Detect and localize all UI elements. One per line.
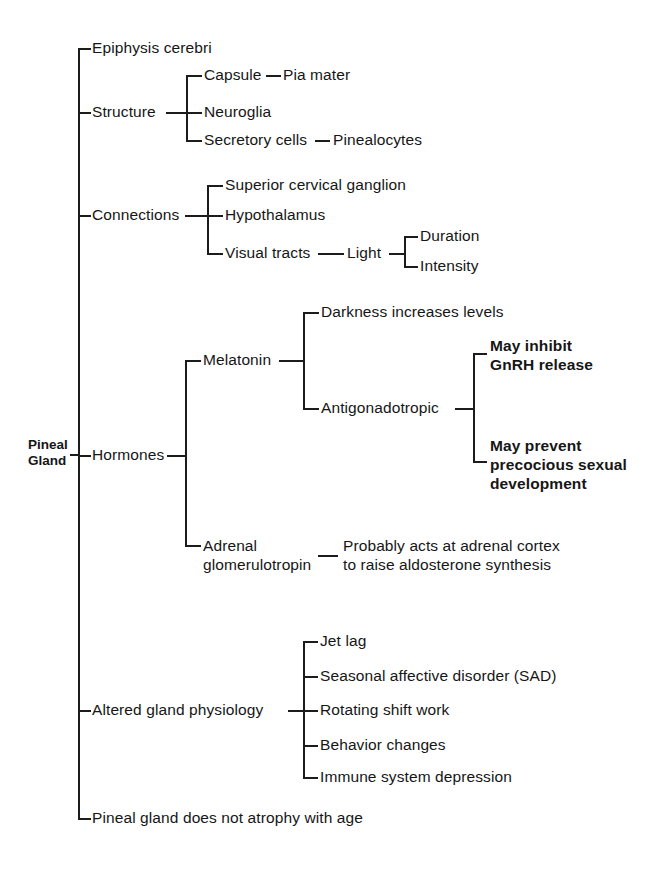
capsule-leaf-connector bbox=[266, 75, 281, 77]
node-epiphysis-cerebri: Epiphysis cerebri bbox=[92, 38, 212, 57]
node-immune-system-depression: Immune system depression bbox=[320, 767, 512, 786]
node-probably-acts-adrenal-cortex: Probably acts at adrenal cortex to raise… bbox=[343, 536, 560, 574]
node-structure: Structure bbox=[92, 102, 156, 121]
node-intensity: Intensity bbox=[420, 256, 479, 275]
antigonadotropic-stub-prevent bbox=[473, 461, 487, 463]
root-label: Pineal Gland bbox=[28, 437, 80, 469]
connections-stub-scg bbox=[207, 185, 223, 187]
node-hormones: Hormones bbox=[92, 445, 164, 464]
connections-stub-visual bbox=[207, 253, 223, 255]
node-altered-gland-physiology: Altered gland physiology bbox=[92, 700, 263, 719]
antigonadotropic-connector bbox=[455, 408, 475, 410]
node-may-inhibit-gnrh-release: May inhibit GnRH release bbox=[490, 336, 593, 374]
hormones-stub-melatonin bbox=[185, 360, 201, 362]
node-pia-mater: Pia mater bbox=[283, 65, 350, 84]
node-light: Light bbox=[347, 243, 381, 262]
altered-stub-rotating bbox=[303, 710, 318, 712]
altered-stub-jet-lag bbox=[303, 641, 318, 643]
branch-stub-atrophy bbox=[78, 818, 91, 820]
node-melatonin: Melatonin bbox=[203, 350, 271, 369]
node-rotating-shift-work: Rotating shift work bbox=[320, 700, 449, 719]
node-secretory-cells: Secretory cells bbox=[204, 130, 307, 149]
connections-stub-hypothalamus bbox=[207, 215, 223, 217]
structure-stub-neuroglia bbox=[186, 112, 202, 114]
branch-stub-hormones bbox=[78, 455, 91, 457]
node-duration: Duration bbox=[420, 226, 479, 245]
node-neuroglia: Neuroglia bbox=[204, 102, 271, 121]
light-stub-intensity bbox=[404, 266, 418, 268]
melatonin-stub-darkness bbox=[303, 312, 319, 314]
branch-stub-structure bbox=[78, 112, 91, 114]
visual-light-connector bbox=[318, 253, 344, 255]
main-spine bbox=[78, 48, 80, 819]
antigonadotropic-sub-spine bbox=[473, 353, 475, 463]
structure-stub-secretory bbox=[186, 140, 202, 142]
structure-connector bbox=[166, 112, 188, 114]
altered-stub-immune bbox=[303, 777, 318, 779]
node-antigonadotropic: Antigonadotropic bbox=[321, 398, 439, 417]
node-pineal-gland-does-not-atrophy: Pineal gland does not atrophy with age bbox=[92, 808, 363, 827]
hormones-sub-spine bbox=[185, 360, 187, 546]
light-sub-spine bbox=[404, 236, 406, 268]
node-superior-cervical-ganglion: Superior cervical ganglion bbox=[225, 175, 406, 194]
node-behavior-changes: Behavior changes bbox=[320, 735, 446, 754]
node-darkness-increases-levels: Darkness increases levels bbox=[321, 302, 504, 321]
concept-map-diagram: Pineal Gland Epiphysis cerebri Structure… bbox=[0, 0, 663, 883]
node-pinealocytes: Pinealocytes bbox=[333, 130, 422, 149]
light-stub-duration bbox=[404, 236, 418, 238]
structure-stub-capsule bbox=[186, 75, 202, 77]
secretory-leaf-connector bbox=[315, 140, 330, 142]
melatonin-connector bbox=[279, 360, 305, 362]
node-adrenal-glomerulotropin: Adrenal glomerulotropin bbox=[203, 536, 311, 574]
connections-connector bbox=[185, 215, 209, 217]
node-capsule: Capsule bbox=[204, 65, 262, 84]
melatonin-stub-antigonadotropic bbox=[303, 408, 319, 410]
node-may-prevent-precocious-sexual-development: May prevent precocious sexual developmen… bbox=[490, 436, 627, 493]
node-visual-tracts: Visual tracts bbox=[225, 243, 310, 262]
structure-sub-spine bbox=[186, 75, 188, 141]
altered-stub-behavior bbox=[303, 745, 318, 747]
light-connector bbox=[389, 253, 405, 255]
node-seasonal-affective-disorder: Seasonal affective disorder (SAD) bbox=[320, 666, 557, 685]
adrenal-leaf-connector bbox=[318, 555, 338, 557]
node-hypothalamus: Hypothalamus bbox=[225, 205, 325, 224]
branch-stub-altered bbox=[78, 710, 91, 712]
melatonin-sub-spine bbox=[303, 312, 305, 409]
connections-sub-spine bbox=[207, 185, 209, 255]
hormones-connector bbox=[167, 455, 187, 457]
antigonadotropic-stub-inhibit bbox=[473, 353, 487, 355]
node-jet-lag: Jet lag bbox=[320, 631, 366, 650]
branch-stub-epiphysis bbox=[78, 48, 91, 50]
node-connections: Connections bbox=[92, 205, 179, 224]
branch-stub-connections bbox=[78, 215, 91, 217]
hormones-stub-adrenal bbox=[185, 545, 201, 547]
altered-stub-sad bbox=[303, 676, 318, 678]
